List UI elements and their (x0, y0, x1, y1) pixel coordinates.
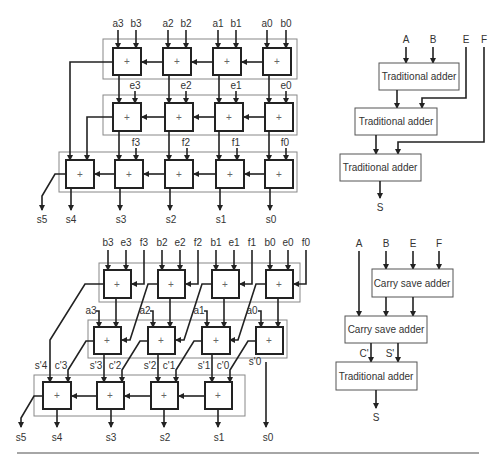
input-label: b3 (102, 237, 114, 248)
input-label: e0 (282, 237, 294, 248)
plus-symbol: + (276, 169, 282, 180)
intermediate-label: S' (386, 348, 395, 359)
output-label: S (377, 202, 384, 213)
input-label: F (481, 34, 487, 45)
input-label: e0 (280, 80, 292, 91)
intermediate-label: C' (359, 348, 368, 359)
input-label: A (356, 238, 363, 249)
plus-symbol: + (215, 390, 221, 401)
output-label: s2 (166, 214, 177, 225)
plus-symbol: + (104, 335, 110, 346)
output-label: s0 (263, 432, 274, 443)
input-label: f0 (281, 137, 290, 148)
intermediate-label: s'1 (198, 360, 211, 371)
input-label: a0 (261, 18, 273, 29)
output-label: s3 (106, 432, 117, 443)
plus-symbol: + (161, 390, 167, 401)
input-label: f2 (194, 237, 203, 248)
intermediate-label: s'2 (144, 360, 157, 371)
intermediate-label: c'1 (163, 360, 176, 371)
block-label: Traditional adder (359, 116, 434, 127)
input-label: e1 (230, 80, 242, 91)
input-label: f1 (248, 237, 257, 248)
plus-symbol: + (174, 56, 180, 67)
input-label: f3 (140, 237, 149, 248)
plus-symbol: + (224, 56, 230, 67)
block-label: Traditional adder (339, 371, 414, 382)
intermediate-label: s'3 (90, 360, 103, 371)
plus-symbol: + (176, 169, 182, 180)
plus-symbol: + (124, 56, 130, 67)
output-label: s2 (160, 432, 171, 443)
output-label: S (373, 412, 380, 423)
input-label: a0 (246, 305, 258, 316)
output-label: s4 (52, 432, 63, 443)
plus-symbol: + (158, 335, 164, 346)
input-label: b1 (230, 18, 242, 29)
intermediate-label: c'2 (109, 360, 122, 371)
plus-symbol: + (222, 279, 228, 290)
input-label: f1 (232, 137, 241, 148)
input-label: F (436, 238, 442, 249)
input-label: e2 (174, 237, 186, 248)
output-label: s5 (16, 432, 27, 443)
plus-symbol: + (54, 390, 60, 401)
plus-symbol: + (176, 112, 182, 123)
plus-symbol: + (114, 279, 120, 290)
plus-symbol: + (276, 112, 282, 123)
intermediate-label: c'3 (55, 360, 68, 371)
block-label: Carry save adder (374, 278, 451, 289)
plus-symbol: + (124, 112, 130, 123)
top-right-block-diagram: A B E F Traditional adder Traditional ad… (340, 34, 487, 213)
input-label: E (463, 34, 470, 45)
plus-symbol: + (213, 335, 219, 346)
plus-symbol: + (276, 279, 282, 290)
input-label: E (410, 238, 417, 249)
input-label: e3 (120, 237, 132, 248)
input-label: b2 (156, 237, 168, 248)
input-label: b1 (210, 237, 222, 248)
block-label: Traditional adder (343, 162, 418, 173)
input-label: B (430, 34, 437, 45)
top-left-adder-array: a3 b3 a2 b2 a1 b1 a0 b0 + + + + e3 e2 (37, 18, 297, 225)
intermediate-label: s'4 (35, 360, 48, 371)
input-label: a2 (139, 305, 151, 316)
input-label: b0 (264, 237, 276, 248)
input-label: a3 (85, 305, 97, 316)
bottom-left-adder-array: b3 e3 f3 b2 e2 f2 b1 e1 f1 b0 e0 f0 + + … (16, 237, 311, 443)
plus-symbol: + (77, 169, 83, 180)
input-label: a3 (112, 18, 124, 29)
output-label: s1 (216, 214, 227, 225)
plus-symbol: + (168, 279, 174, 290)
plus-symbol: + (226, 112, 232, 123)
input-label: B (383, 238, 390, 249)
output-label: s1 (214, 432, 225, 443)
plus-symbol: + (107, 390, 113, 401)
intermediate-label: c'0 (217, 360, 230, 371)
block-label: Traditional adder (382, 71, 457, 82)
input-label: a2 (162, 18, 174, 29)
input-label: e3 (129, 80, 141, 91)
input-label: a1 (212, 18, 224, 29)
output-label: s3 (116, 214, 127, 225)
input-label: a1 (193, 305, 205, 316)
input-label: b0 (280, 18, 292, 29)
plus-symbol: + (274, 56, 280, 67)
plus-symbol: + (126, 169, 132, 180)
input-label: f3 (132, 137, 141, 148)
input-label: A (403, 34, 410, 45)
input-label: b2 (180, 18, 192, 29)
input-label: f2 (182, 137, 191, 148)
input-label: f0 (302, 237, 311, 248)
plus-symbol: + (266, 335, 272, 346)
block-label: Carry save adder (348, 324, 425, 335)
input-label: e2 (180, 80, 192, 91)
bottom-right-block-diagram: A B E F Carry save adder Carry save adde… (336, 238, 453, 423)
intermediate-label: s'0 (249, 356, 262, 367)
output-label: s0 (266, 214, 277, 225)
input-label: b3 (130, 18, 142, 29)
output-label: s5 (37, 214, 48, 225)
plus-symbol: + (227, 169, 233, 180)
input-label: e1 (228, 237, 240, 248)
adder-diagram: a3 b3 a2 b2 a1 b1 a0 b0 + + + + e3 e2 (0, 0, 504, 459)
